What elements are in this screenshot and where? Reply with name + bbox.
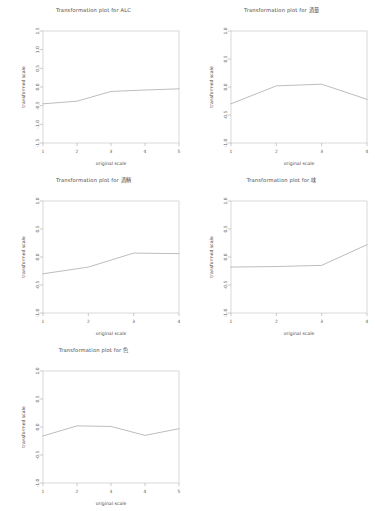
y-tick-label: 0.5 — [223, 55, 228, 62]
y-tick-label: 0.0 — [35, 253, 40, 260]
x-tick-label: 4 — [178, 319, 181, 324]
y-tick-label: -1.0 — [223, 309, 228, 318]
x-tick-label: 3 — [110, 489, 113, 494]
x-tick-label: 1 — [230, 319, 233, 324]
plot-panel-plot-wei: Transformation plot for 味1234-1.0-0.50.0… — [188, 170, 375, 340]
x-tick-label: 3 — [110, 149, 113, 154]
x-tick-label: 4 — [366, 149, 369, 154]
x-tick-label: 2 — [275, 149, 278, 154]
y-tick-label: 1.5 — [35, 27, 40, 34]
x-tick-label: 2 — [87, 319, 90, 324]
x-axis-title: original scale — [284, 161, 315, 166]
plot-panel-plot-jiuliang: Transformation plot for 酒量12341.00.50.0-… — [188, 0, 375, 170]
x-tick-label: 3 — [320, 319, 323, 324]
x-tick-label: 2 — [76, 489, 79, 494]
transformation-curve — [231, 245, 367, 267]
y-tick-label: -0.5 — [35, 281, 40, 290]
plot-panel-plot-jiujing: Transformation plot for 酒精1234-1.0-0.50.… — [0, 170, 187, 340]
plot-frame — [43, 31, 179, 143]
x-tick-label: 3 — [320, 149, 323, 154]
plot-panel-plot-se: Transformation plot for 色12345-1.0-0.50.… — [0, 340, 187, 510]
x-axis-title: original scale — [96, 331, 127, 336]
y-tick-label: 1.0 — [35, 197, 40, 204]
y-tick-label: 0.0 — [35, 83, 40, 90]
y-tick-label: -1.0 — [35, 309, 40, 318]
y-tick-label: 1.0 — [35, 46, 40, 53]
y-axis-title: transformed scale — [209, 66, 214, 108]
x-tick-label: 3 — [132, 319, 135, 324]
y-tick-label: 1.0 — [223, 27, 228, 34]
plot-canvas: 1234-1.0-0.50.00.51.0original scaletrans… — [0, 170, 187, 340]
y-tick-label: -1.0 — [223, 139, 228, 148]
y-tick-label: 0.0 — [223, 253, 228, 260]
transformation-curve — [231, 84, 367, 104]
y-tick-label: 1.0 — [35, 367, 40, 374]
y-tick-label: 1.0 — [223, 197, 228, 204]
y-tick-label: -0.5 — [223, 111, 228, 120]
y-tick-label: 0.0 — [35, 423, 40, 430]
y-axis-title: transformed scale — [21, 236, 26, 278]
plot-frame — [43, 371, 179, 483]
x-axis-title: original scale — [96, 501, 127, 506]
y-tick-label: 0.5 — [223, 225, 228, 232]
x-tick-label: 5 — [178, 149, 181, 154]
plot-canvas: 12345-1.0-0.50.00.51.0original scaletran… — [0, 340, 187, 510]
plot-canvas: 12345-1.5-1.0-0.50.00.51.01.5original sc… — [0, 0, 187, 170]
transformation-plot-grid: Transformation plot for ALC12345-1.5-1.0… — [0, 0, 375, 511]
x-tick-label: 4 — [366, 319, 369, 324]
x-tick-label: 2 — [275, 319, 278, 324]
y-axis-title: transformed scale — [21, 66, 26, 108]
y-tick-label: 0.5 — [35, 395, 40, 402]
y-tick-label: -1.0 — [35, 479, 40, 488]
transformation-curve — [43, 89, 179, 104]
y-tick-label: -0.5 — [223, 281, 228, 290]
x-axis-title: original scale — [284, 331, 315, 336]
y-tick-label: 0.5 — [35, 225, 40, 232]
y-tick-label: 0.0 — [223, 83, 228, 90]
plot-frame — [43, 201, 179, 313]
x-tick-label: 4 — [144, 489, 147, 494]
y-tick-label: -0.5 — [35, 451, 40, 460]
y-tick-label: -1.0 — [35, 120, 40, 129]
x-tick-label: 1 — [42, 319, 45, 324]
plot-frame — [231, 201, 367, 313]
transformation-curve — [43, 253, 179, 274]
x-tick-label: 5 — [178, 489, 181, 494]
y-tick-label: -1.5 — [35, 139, 40, 148]
x-axis-title: original scale — [96, 161, 127, 166]
y-tick-label: 0.5 — [35, 65, 40, 72]
x-tick-label: 4 — [144, 149, 147, 154]
plot-panel-plot-alc: Transformation plot for ALC12345-1.5-1.0… — [0, 0, 187, 170]
plot-canvas: 12341.00.50.0-0.5-1.0original scaletrans… — [188, 0, 375, 170]
x-tick-label: 1 — [230, 149, 233, 154]
y-tick-label: -0.5 — [35, 101, 40, 110]
transformation-curve — [43, 426, 179, 436]
plot-frame — [231, 31, 367, 143]
x-tick-label: 2 — [76, 149, 79, 154]
plot-canvas: 1234-1.0-0.50.00.51.0original scaletrans… — [188, 170, 375, 340]
x-tick-label: 1 — [42, 149, 45, 154]
y-axis-title: transformed scale — [21, 406, 26, 448]
y-axis-title: transformed scale — [209, 236, 214, 278]
x-tick-label: 1 — [42, 489, 45, 494]
